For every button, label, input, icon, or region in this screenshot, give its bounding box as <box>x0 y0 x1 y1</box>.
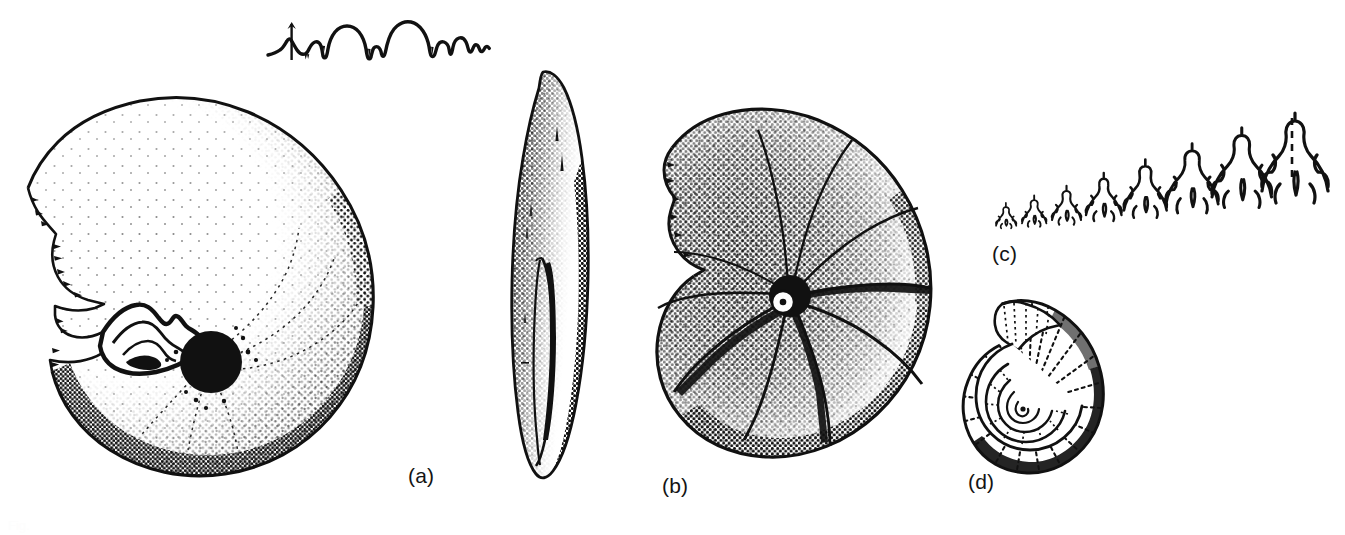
panel-label-b: (b) <box>662 474 688 498</box>
suture-frills-group <box>996 113 1328 228</box>
panel-label-d: (d) <box>968 470 994 494</box>
small-ribbed-ammonite-figure: (d) <box>956 292 1126 492</box>
ammonitic-suture-line-figure: (c) <box>990 115 1340 245</box>
ventral-view-ammonite-figure <box>496 62 606 492</box>
suture-trace-path <box>268 22 489 60</box>
umbilicus-b <box>769 275 811 317</box>
ribbed-ammonite-lateral-figure: (b) <box>636 96 976 496</box>
panel-label-a: (a) <box>408 464 434 488</box>
shell-stipple-a <box>0 60 450 500</box>
ammonite-illustration-plate: (a) <box>0 0 1345 535</box>
cropped-caption-remnant: Fig. <box>8 518 30 533</box>
panel-label-c: (c) <box>992 242 1017 266</box>
lateral-view-ammonite-figure: (a) <box>0 60 450 500</box>
